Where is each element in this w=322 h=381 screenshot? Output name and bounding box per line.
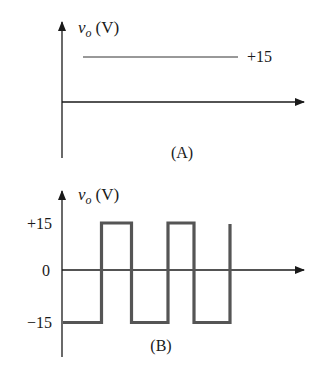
tick-label-minus15: −15 <box>27 314 52 331</box>
panel-a: vo(V) +15 (A) <box>62 18 304 162</box>
caption-a: (A) <box>171 144 193 162</box>
tick-label-zero: 0 <box>42 262 50 279</box>
y-axis-label-a: vo(V) <box>78 18 119 40</box>
y-axis-label-b: vo(V) <box>78 185 119 207</box>
panel-b: vo(V) +15 0 −15 (B) <box>27 185 304 357</box>
square-waveform <box>63 223 230 323</box>
caption-b: (B) <box>150 337 171 355</box>
diagram-canvas: vo(V) +15 (A) vo(V) +15 0 −15 (B) <box>0 0 322 381</box>
level-label-a: +15 <box>247 48 272 65</box>
tick-label-plus15: +15 <box>27 215 52 232</box>
